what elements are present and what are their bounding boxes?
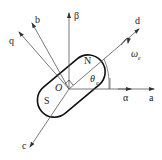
label-b: b: [35, 14, 40, 25]
label-alpha: α: [123, 92, 129, 103]
label-origin-O: O: [55, 82, 62, 93]
q-axis: [19, 32, 69, 89]
omega-symbol: ω: [131, 48, 138, 59]
theta-symbol: θ: [90, 73, 95, 84]
label-S: S: [44, 95, 50, 106]
label-omega-e: ω e: [131, 48, 141, 61]
theta-subscript: e: [96, 80, 99, 86]
label-theta-e: θ e: [90, 73, 99, 86]
label-N: N: [84, 55, 91, 66]
label-d: d: [135, 15, 140, 26]
b-axis: [32, 23, 69, 89]
label-a: a: [149, 92, 154, 103]
omega-subscript: e: [138, 55, 141, 61]
label-c: c: [22, 140, 27, 151]
pmsm-vector-diagram: β b q d N S O α a c θ e ω e: [0, 0, 162, 160]
label-beta: β: [74, 10, 79, 21]
label-q: q: [9, 35, 14, 46]
